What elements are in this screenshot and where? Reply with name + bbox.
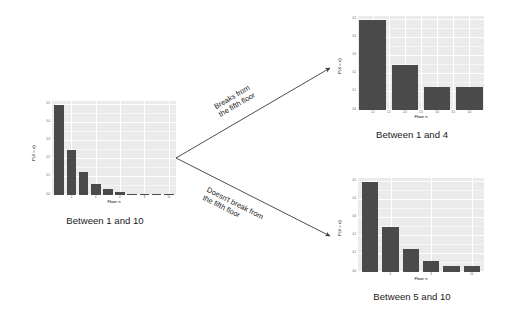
bar bbox=[359, 20, 385, 110]
bar bbox=[392, 65, 418, 110]
gridline-vertical bbox=[389, 16, 390, 110]
gridline-vertical bbox=[120, 101, 121, 195]
bar bbox=[140, 194, 150, 195]
chart-bottom-right-caption: Between 5 and 10 bbox=[336, 292, 488, 302]
y-axis-tick-label: 0.4 bbox=[338, 36, 356, 39]
y-axis-tick-label: 0.2 bbox=[338, 234, 356, 237]
bar bbox=[464, 266, 480, 272]
y-axis-tick-label: 0.5 bbox=[338, 18, 356, 21]
bar bbox=[79, 172, 89, 195]
bar bbox=[456, 87, 482, 110]
bar bbox=[164, 194, 174, 195]
y-axis-tick-label: 0.2 bbox=[32, 157, 50, 160]
chart-left: P(X = n) Floor n Between 1 and 10 0.00.1… bbox=[30, 99, 180, 219]
bar bbox=[424, 87, 450, 110]
bar bbox=[67, 150, 77, 195]
bar bbox=[127, 194, 137, 195]
gridline-vertical bbox=[421, 16, 422, 110]
bar bbox=[443, 266, 459, 272]
bar bbox=[152, 194, 162, 195]
y-axis-tick-label: 0.0 bbox=[32, 194, 50, 197]
chart-top-right-plot-area bbox=[358, 16, 484, 110]
y-axis-tick-label: 0.0 bbox=[338, 271, 356, 274]
chart-bottom-right-plot-area bbox=[358, 178, 484, 272]
y-axis-tick-label: 0.4 bbox=[338, 198, 356, 201]
bar bbox=[423, 261, 439, 272]
bar bbox=[382, 227, 398, 272]
gridline-vertical bbox=[431, 178, 432, 272]
x-axis-tick-label: 10 bbox=[462, 274, 482, 277]
x-axis-tick-label: 10 bbox=[159, 197, 179, 200]
chart-top-right-caption: Between 1 and 4 bbox=[336, 130, 488, 140]
gridline-vertical bbox=[472, 178, 473, 272]
chart-top-right: P(X = n) Floor n Between 1 and 4 0.00.10… bbox=[336, 14, 488, 138]
branch-label-upper: Breaks from the fifth floor bbox=[213, 83, 257, 119]
y-axis-tick-label: 0.4 bbox=[32, 121, 50, 124]
chart-top-right-x-axis-title: Floor n bbox=[358, 115, 484, 119]
branch-arrow-upper bbox=[176, 68, 330, 158]
chart-left-caption: Between 1 and 10 bbox=[30, 216, 180, 226]
bar bbox=[362, 182, 378, 272]
bar bbox=[54, 105, 64, 195]
y-axis-tick-label: 0.5 bbox=[338, 180, 356, 183]
x-axis-tick-label: 8 bbox=[134, 197, 154, 200]
y-axis-tick-label: 0.5 bbox=[32, 103, 50, 106]
y-axis-tick-label: 0.3 bbox=[338, 54, 356, 57]
y-axis-tick-label: 0.1 bbox=[338, 90, 356, 93]
bar bbox=[91, 184, 101, 195]
x-axis-tick-label: 6 bbox=[381, 274, 401, 277]
gridline-vertical bbox=[144, 101, 145, 195]
y-axis-tick-label: 0.0 bbox=[338, 109, 356, 112]
chart-bottom-right-x-axis-title: Floor n bbox=[358, 277, 484, 281]
bar bbox=[403, 249, 419, 272]
y-axis-tick-label: 0.3 bbox=[32, 139, 50, 142]
x-axis-tick-label: 6 bbox=[110, 197, 130, 200]
x-axis-tick-label: 4.0 bbox=[459, 112, 479, 115]
x-axis-tick-label: 4 bbox=[86, 197, 106, 200]
gridline-vertical bbox=[453, 16, 454, 110]
y-axis-tick-label: 0.3 bbox=[338, 216, 356, 219]
y-axis-tick-label: 0.1 bbox=[338, 252, 356, 255]
gridline-vertical bbox=[96, 101, 97, 195]
chart-left-plot-area bbox=[52, 101, 176, 195]
bar bbox=[115, 192, 125, 195]
chart-bottom-right: P(X = n) Floor n Between 5 and 10 0.00.1… bbox=[336, 176, 488, 300]
gridline-vertical bbox=[169, 101, 170, 195]
y-axis-tick-label: 0.1 bbox=[32, 175, 50, 178]
x-axis-tick-label: 8 bbox=[421, 274, 441, 277]
y-axis-tick-label: 0.2 bbox=[338, 72, 356, 75]
chart-left-x-axis-title: Floor n bbox=[52, 200, 176, 204]
branch-label-lower: Doesn't break from the fifth floor bbox=[201, 186, 264, 230]
x-axis-tick-label: 2 bbox=[61, 197, 81, 200]
bar bbox=[103, 189, 113, 195]
